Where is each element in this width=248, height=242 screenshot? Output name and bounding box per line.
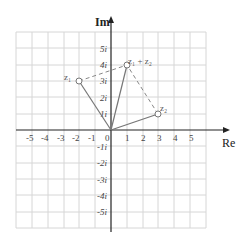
svg-text:2i: 2i (100, 93, 108, 103)
svg-text:-5i: -5i (97, 207, 107, 217)
label-z2: z₂ (160, 103, 167, 113)
x-tick-labels: -5 -4 -3 -2 -1 0 1 2 3 4 5 (26, 133, 194, 143)
svg-text:3i: 3i (99, 76, 108, 86)
svg-text:5: 5 (189, 133, 194, 143)
svg-text:-4i: -4i (97, 191, 107, 201)
label-sum: z₁ + z₂ (128, 56, 152, 66)
svg-text:-5: -5 (26, 133, 34, 143)
svg-text:-2: -2 (72, 133, 80, 143)
svg-text:3: 3 (157, 133, 162, 143)
real-axis-arrow-icon (223, 127, 230, 133)
svg-text:-4: -4 (41, 133, 49, 143)
label-z1: z₁ (64, 72, 71, 82)
argand-diagram: Re Im -5 -4 -3 -2 -1 0 1 2 3 4 5 1i 2i 3… (0, 0, 248, 242)
svg-text:-2i: -2i (97, 158, 107, 168)
svg-text:4i: 4i (100, 60, 108, 70)
svg-text:5i: 5i (100, 44, 108, 54)
svg-text:2: 2 (141, 133, 146, 143)
svg-text:4: 4 (173, 133, 178, 143)
real-axis-label: Re (222, 136, 235, 150)
svg-text:-1i: -1i (97, 142, 107, 152)
svg-text:-3i: -3i (97, 175, 107, 185)
vector-z2 (111, 114, 158, 130)
imaginary-axis-label: Im (95, 15, 110, 29)
svg-text:-1: -1 (88, 133, 96, 143)
svg-text:1: 1 (125, 133, 130, 143)
svg-text:-3: -3 (57, 133, 65, 143)
point-z1 (76, 78, 82, 84)
